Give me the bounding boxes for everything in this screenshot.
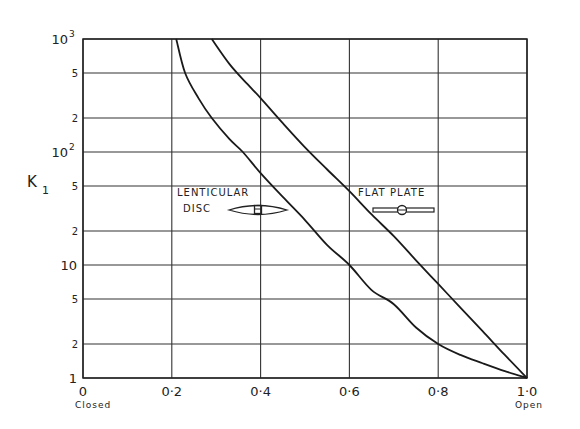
data-series <box>176 39 527 378</box>
y-tick-label-major: 10 <box>60 258 77 273</box>
x-tick-label: 0·4 <box>250 384 271 399</box>
y-tick-label-minor: 2 <box>72 339 78 350</box>
legend-icons <box>229 206 434 215</box>
y-tick-label-minor: 2 <box>72 226 78 237</box>
plot-frame <box>83 39 527 378</box>
x-tick-label: 0 <box>79 384 87 399</box>
chart: 00·20·40·60·81·0125102510225103 LENTICUL… <box>0 0 580 429</box>
annotations: LENTICULAR DISC FLAT PLATE K 1 Closed Op… <box>27 173 543 410</box>
y-axis-label: K <box>27 173 38 191</box>
y-axis-label-subscript: 1 <box>42 184 49 197</box>
grid <box>83 39 527 378</box>
x-tick-label: 1·0 <box>517 384 538 399</box>
y-tick-label-minor: 5 <box>72 181 78 192</box>
axes <box>83 39 527 378</box>
y-tick-label-minor: 5 <box>72 294 78 305</box>
y-tick-label-major: 10 <box>51 32 68 47</box>
y-tick-label-minor: 5 <box>72 68 78 79</box>
lenticular-disc-icon <box>229 206 287 215</box>
y-tick-label-minor: 2 <box>72 113 78 124</box>
open-label: Open <box>515 400 543 410</box>
y-tick-label-major: 10 <box>51 145 68 160</box>
closed-label: Closed <box>75 400 111 410</box>
y-tick-label-major: 1 <box>69 371 77 386</box>
flat-plate-label: FLAT PLATE <box>358 187 425 198</box>
x-tick-label: 0·2 <box>161 384 182 399</box>
x-tick-label: 0·8 <box>428 384 449 399</box>
lenticular-disc-curve <box>176 39 527 378</box>
lenticular-label-line2: DISC <box>183 203 211 214</box>
lenticular-label-line1: LENTICULAR <box>177 187 249 198</box>
y-tick-label-exponent: 2 <box>69 142 75 152</box>
y-tick-label-exponent: 3 <box>69 29 75 39</box>
x-tick-label: 0·6 <box>339 384 360 399</box>
flat-plate-icon <box>373 206 434 215</box>
